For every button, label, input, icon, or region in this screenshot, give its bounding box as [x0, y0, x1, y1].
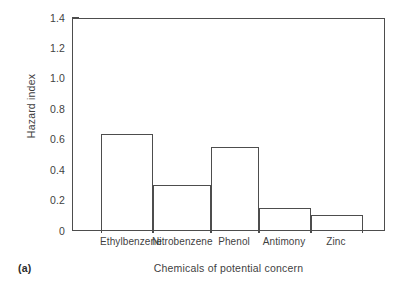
bar-chart-figure: Hazard index 00.20.40.60.81.01.21.4 Ethy…: [0, 0, 407, 294]
y-axis-tick-label: 0.4: [19, 165, 65, 176]
bar-phenol: [211, 147, 259, 233]
x-axis-tick-label: Ethylbenzene: [100, 236, 152, 247]
bar-ethylbenzene: [101, 134, 153, 233]
x-axis-tick-label: Phenol: [210, 236, 258, 247]
plot-area: [72, 18, 385, 231]
y-axis-tick-label: 0.8: [19, 104, 65, 115]
bar-nitrobenzene: [153, 185, 211, 233]
x-axis-title: Chemicals of potential concern: [72, 262, 385, 274]
y-axis-tick-label: 1.0: [19, 73, 65, 84]
x-axis-tick-label: Zinc: [310, 236, 362, 247]
y-axis-tick-label: 1.2: [19, 43, 65, 54]
y-axis-tick-label: 0.2: [19, 195, 65, 206]
panel-caption: (a): [18, 262, 31, 274]
bar-antimony: [259, 208, 311, 233]
bar-zinc: [311, 215, 363, 233]
x-axis-tick-label: Nitrobenzene: [152, 236, 210, 247]
y-axis-tick-label: 0: [19, 226, 65, 237]
y-axis-tick-label: 1.4: [19, 13, 65, 24]
y-axis-tick-label: 0.6: [19, 134, 65, 145]
x-axis-tick-label: Antimony: [258, 236, 310, 247]
